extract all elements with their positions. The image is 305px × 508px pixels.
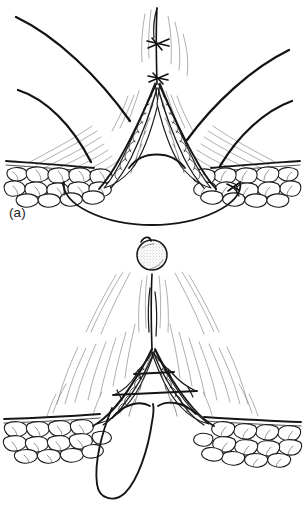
- wound-flaps: [99, 83, 216, 189]
- apex-knot-upper: [147, 38, 169, 50]
- apex-knot-lower: [148, 73, 168, 84]
- midline-hatching: [142, 10, 188, 76]
- midline-suture-thread: [148, 274, 156, 350]
- fat-layer-left: [4, 167, 112, 207]
- panel-a-caption: (a): [9, 205, 26, 220]
- retractor-left-inner: [18, 90, 91, 162]
- apex-suture-thread: [147, 8, 169, 84]
- figure-root: (a): [0, 0, 305, 508]
- fat-layer-left: [3, 420, 111, 464]
- panel-a: (a): [0, 0, 305, 232]
- fat-layer-right: [194, 422, 302, 468]
- gauze-pledget-swab: [137, 237, 167, 270]
- retractor-left-outer: [16, 17, 130, 121]
- panel-b: (b): [0, 232, 305, 508]
- panel-b-illustration: [0, 232, 305, 508]
- panel-a-illustration: [0, 0, 305, 232]
- retractor-right-inner: [220, 101, 292, 166]
- midline-hatching: [139, 276, 169, 332]
- flap-left: [97, 350, 153, 424]
- retractor-right-outer: [187, 50, 289, 140]
- suture-thread-vertical: [156, 8, 157, 84]
